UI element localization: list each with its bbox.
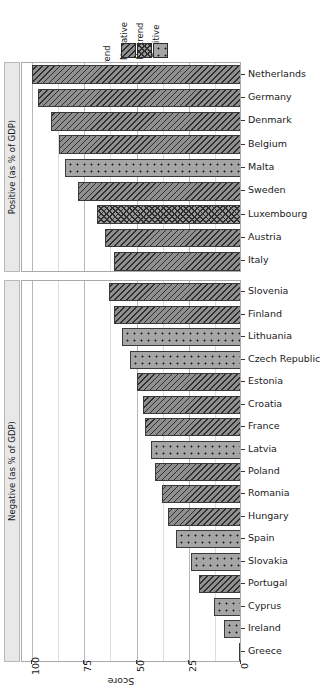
legend-swatch-negative [121,43,136,58]
y-axis-label-finland: Finland [248,309,282,319]
y-axis-tick [241,144,245,145]
bar-poland[interactable] [155,463,241,481]
y-axis-tick [241,583,245,584]
x-axis-label: 25 [188,660,198,672]
facet-strip-positive: Positive (as % of GDP) [4,62,20,272]
y-axis-label-belgium: Belgium [248,139,287,149]
y-axis-tick [241,628,245,629]
bar-luxembourg[interactable] [97,205,241,224]
x-axis-label: 100 [31,657,41,675]
bar-malta[interactable] [65,159,241,178]
bar-croatia[interactable] [143,396,241,414]
bar-denmark[interactable] [51,112,241,131]
bar-slovakia[interactable] [191,553,241,571]
x-axis-label: 50 [136,660,146,672]
chart-panel-negative [21,280,241,662]
bar-finland[interactable] [114,306,241,324]
bar-belgium[interactable] [59,135,241,154]
bar-estonia[interactable] [137,373,242,391]
chart-legend: Trend Negative No trend Positive [104,2,184,58]
y-axis-tick [241,359,245,360]
y-axis-tick [241,606,245,607]
y-axis-tick [241,561,245,562]
legend-swatch-no-trend [137,43,152,58]
bar-ireland[interactable] [224,620,241,638]
y-axis-tick [241,74,245,75]
y-axis-tick [241,237,245,238]
bar-latvia[interactable] [151,441,241,459]
y-axis-tick [241,314,245,315]
y-axis-tick [241,167,245,168]
y-axis-label-spain: Spain [248,533,275,543]
bar-germany[interactable] [38,89,241,108]
y-axis-tick [241,214,245,215]
y-axis-tick [241,493,245,494]
legend-swatch-positive [153,43,168,58]
y-axis-label-hungary: Hungary [248,511,289,521]
y-axis-tick [241,260,245,261]
y-axis-tick [241,426,245,427]
x-axis-title: Score [108,676,135,686]
y-axis-tick [241,291,245,292]
y-axis-label-lithuania: Lithuania [248,331,292,341]
y-axis-label-austria: Austria [248,232,282,242]
bar-czech-republic[interactable] [130,351,241,369]
y-axis-tick [241,651,245,652]
bar-sweden[interactable] [78,182,241,201]
bar-hungary[interactable] [168,508,241,526]
bar-lithuania[interactable] [122,328,241,346]
y-axis-label-ireland: Ireland [248,623,281,633]
bar-netherlands[interactable] [32,65,241,84]
bars-negative [22,281,240,661]
chart-panel-positive [21,62,241,272]
bar-spain[interactable] [176,530,241,548]
bars-positive [22,63,240,271]
bar-france[interactable] [145,418,241,436]
y-axis-label-slovakia: Slovakia [248,556,288,566]
x-axis-label: 0 [240,663,250,669]
facet-strip-label-positive: Positive (as % of GDP) [8,120,17,214]
y-axis-tick [241,538,245,539]
y-axis-label-poland: Poland [248,466,280,476]
bar-greece[interactable] [239,643,241,661]
y-axis-tick [241,404,245,405]
bar-cyprus[interactable] [214,598,241,616]
y-axis-label-greece: Greece [248,646,282,656]
bar-austria[interactable] [105,229,241,248]
y-axis-label-germany: Germany [248,92,292,102]
y-axis-label-romania: Romania [248,488,290,498]
y-axis-tick [241,471,245,472]
y-axis-label-latvia: Latvia [248,444,277,454]
y-axis-label-estonia: Estonia [248,376,283,386]
y-axis-label-denmark: Denmark [248,115,292,125]
y-axis-label-portugal: Portugal [248,578,287,588]
y-axis-tick [241,516,245,517]
y-axis-label-france: France [248,421,280,431]
y-axis-label-italy: Italy [248,255,269,265]
y-axis-tick [241,97,245,98]
y-axis-tick [241,449,245,450]
x-axis-label: 75 [83,660,93,672]
y-axis-label-czech-republic: Czech Republic [248,354,320,364]
y-axis-label-croatia: Croatia [248,399,282,409]
bar-portugal[interactable] [199,575,241,593]
y-axis-tick [241,336,245,337]
y-axis-label-netherlands: Netherlands [248,69,306,79]
bar-romania[interactable] [162,485,241,503]
y-axis-label-luxembourg: Luxembourg [248,209,307,219]
chart-canvas: Trend Negative No trend Positive Positiv… [0,0,323,700]
y-axis-tick [241,381,245,382]
y-axis-label-sweden: Sweden [248,185,286,195]
y-axis-label-cyprus: Cyprus [248,601,281,611]
facet-strip-negative: Negative (as % of GDP) [4,280,20,662]
bar-italy[interactable] [114,252,241,271]
bar-slovenia[interactable] [109,283,241,301]
y-axis-label-malta: Malta [248,162,274,172]
y-axis-tick [241,190,245,191]
facet-strip-label-negative: Negative (as % of GDP) [8,421,17,521]
y-axis-tick [241,120,245,121]
y-axis-label-slovenia: Slovenia [248,286,288,296]
